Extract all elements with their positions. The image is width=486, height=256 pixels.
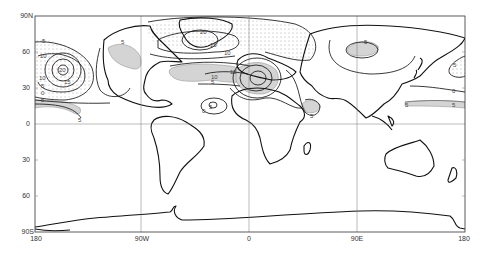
contour-label: 15 [210, 42, 217, 48]
y-tick-90n: 90N [20, 12, 33, 19]
y-tick-90s: 90S [22, 228, 35, 235]
x-tick-180e: 180 [458, 235, 470, 242]
y-tick-0: 0 [26, 120, 30, 127]
contour-label: 15 [64, 79, 71, 85]
y-tick-30s: 30 [22, 156, 30, 163]
y-tick-30n: 30 [22, 84, 30, 91]
contour-label: 20 [59, 67, 66, 73]
x-tick-90w: 90W [135, 235, 150, 242]
y-tick-60s: 60 [22, 192, 30, 199]
contour-label: 15 [230, 69, 237, 75]
contour-label: 20 [200, 29, 207, 35]
contour-map: 90N 60 30 0 30 60 90S 180 90W 0 90E 180 … [0, 0, 486, 256]
contour-label: 10 [39, 75, 46, 81]
x-tick-90e: 90E [351, 235, 364, 242]
y-tick-60n: 60 [22, 48, 30, 55]
contour-label: 10 [40, 53, 47, 59]
x-tick-0: 0 [247, 235, 251, 242]
x-tick-180w: 180 [30, 235, 42, 242]
contour-label: 10 [224, 50, 231, 56]
